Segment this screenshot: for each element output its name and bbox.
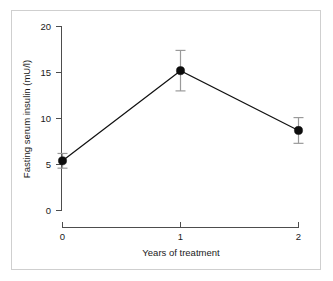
x-axis-title: Years of treatment <box>142 247 220 258</box>
x-tick-label-2: 2 <box>296 231 301 242</box>
line-chart-plot: 20 15 10 5 0 Fasting serum insulin (mU/l… <box>0 0 333 281</box>
y-tick-label-20: 20 <box>40 21 51 32</box>
data-point-2 <box>294 126 302 134</box>
y-tick-label-10: 10 <box>40 113 51 124</box>
y-tick-label-15: 15 <box>40 67 51 78</box>
x-tick-label-1: 1 <box>178 231 183 242</box>
y-tick-label-5: 5 <box>46 159 51 170</box>
y-axis-title: Fasting serum insulin (mU/l) <box>21 60 32 178</box>
x-tick-label-0: 0 <box>60 231 65 242</box>
x-axis: 0 1 2 Years of treatment <box>60 222 301 259</box>
chart-figure: 20 15 10 5 0 Fasting serum insulin (mU/l… <box>0 0 333 281</box>
y-tick-label-0: 0 <box>46 205 51 216</box>
y-axis: 20 15 10 5 0 Fasting serum insulin (mU/l… <box>21 21 62 216</box>
data-point-1 <box>176 67 184 75</box>
data-series-layer <box>58 50 304 168</box>
data-point-0 <box>58 157 66 165</box>
